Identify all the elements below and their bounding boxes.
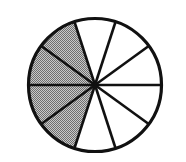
pie-chart-svg <box>0 0 186 162</box>
pie-fraction-figure <box>0 0 186 162</box>
